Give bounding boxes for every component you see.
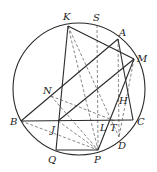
segment-PM: [98, 59, 134, 150]
segment-AD: [118, 39, 119, 137]
label-point-D: D: [117, 140, 126, 151]
segment-NP: [51, 96, 98, 150]
segment-JM: [58, 59, 134, 121]
segment-BA: [21, 39, 118, 121]
label-point-N: N: [42, 85, 53, 96]
label-point-K: K: [62, 11, 71, 22]
label-point-S: S: [93, 12, 100, 23]
label-point-H: H: [118, 95, 128, 106]
label-point-B: B: [9, 116, 17, 127]
label-point-Q: Q: [48, 154, 56, 165]
geometry-diagram: KSAMCDPQBNJLTH: [0, 0, 157, 172]
dashed-lines: [21, 25, 134, 150]
solid-lines: [21, 26, 134, 150]
label-point-T: T: [110, 122, 118, 133]
label-point-P: P: [93, 154, 101, 165]
label-point-L: L: [99, 122, 107, 133]
circumcircle: [13, 23, 145, 155]
label-point-A: A: [118, 27, 126, 38]
label-point-C: C: [137, 116, 145, 127]
label-point-M: M: [136, 53, 148, 64]
segment-BC: [21, 120, 133, 121]
label-point-J: J: [49, 124, 56, 135]
segment-SP: [97, 25, 98, 150]
segment-KQ: [56, 26, 68, 150]
